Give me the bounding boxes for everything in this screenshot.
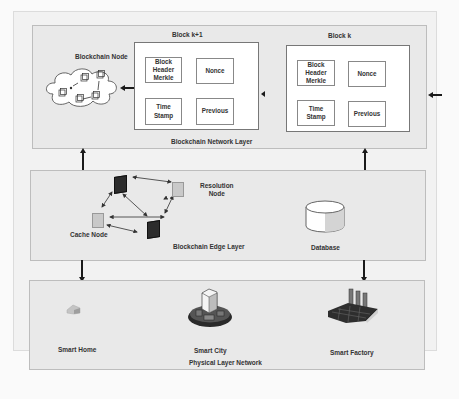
network-layer-title: Blockchain Network Layer — [171, 138, 252, 146]
block-k-plus-1: Block Header Merkle Nonce Time Stamp Pre… — [134, 42, 259, 130]
physical-layer-title: Physical Layer Network — [189, 359, 262, 367]
arrow-down-icon — [79, 260, 85, 282]
block-k-plus-1-title: Block k+1 — [172, 31, 203, 39]
arrow-down-icon — [361, 260, 367, 282]
arrow-left-small-icon — [261, 91, 267, 97]
smart-home-label: Smart Home — [58, 346, 96, 354]
smart-factory-icon — [326, 287, 380, 327]
edge-layer-title: Blockchain Edge Layer — [173, 243, 245, 251]
cache-node-label: Cache Node — [70, 231, 108, 239]
arrow-up-icon — [362, 148, 368, 172]
smart-city-label: Smart City — [194, 347, 227, 355]
cache-server-icon — [92, 213, 104, 228]
resolution-server-icon — [172, 182, 184, 197]
database-icon — [305, 200, 345, 234]
block-k-title: Block k — [328, 32, 351, 40]
server-icon — [114, 175, 127, 194]
blockchain-cloud-icon — [43, 64, 123, 109]
arrow-up-icon — [80, 148, 86, 172]
database-label: Database — [311, 244, 340, 252]
blockchain-node-label: Blockchain Node — [75, 53, 128, 61]
timestamp-cell: Time Stamp — [145, 98, 182, 125]
nonce-cell: Nonce — [348, 61, 386, 87]
nonce-cell: Nonce — [196, 58, 234, 84]
block-header-merkle-cell: Block Header Merkle — [297, 60, 335, 86]
timestamp-cell: Time Stamp — [297, 100, 335, 126]
arrow-left-incoming-icon — [428, 92, 442, 98]
previous-cell: Previous — [348, 101, 386, 127]
block-header-merkle-cell: Block Header Merkle — [145, 57, 182, 83]
smart-home-icon — [66, 304, 82, 315]
smart-city-icon — [187, 287, 233, 329]
server-icon — [147, 220, 160, 239]
block-k: Block Header Merkle Nonce Time Stamp Pre… — [286, 45, 410, 132]
smart-factory-label: Smart Factory — [330, 349, 374, 357]
resolution-node-label: Resolution Node — [200, 182, 234, 198]
previous-cell: Previous — [196, 98, 234, 125]
